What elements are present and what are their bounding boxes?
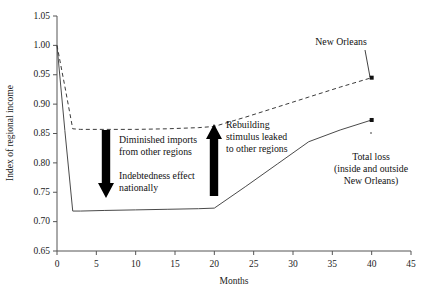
y-tick-label: 0.95: [33, 69, 50, 79]
y-axis-tick-labels: 0.650.700.750.800.850.900.951.001.05: [33, 11, 50, 256]
new-orleans-label: New Orleans: [315, 36, 367, 47]
chart-figure: 0.650.700.750.800.850.900.951.001.05 051…: [0, 0, 427, 302]
y-tick-label: 1.05: [33, 11, 50, 21]
x-tick-label: 45: [406, 259, 416, 269]
down-arrow: [98, 130, 114, 198]
y-tick-label: 0.70: [33, 216, 50, 226]
x-tick-label: 35: [328, 259, 338, 269]
indebtedness-label-line-1: Indebtedness effect: [119, 170, 195, 181]
x-axis-ticks: [57, 251, 411, 255]
x-tick-label: 0: [55, 259, 60, 269]
x-tick-label: 20: [210, 259, 220, 269]
rebuilding-stimulus-label-line-1: Rebuilding: [226, 119, 270, 130]
rebuilding-stimulus-label-line-2: stimulus leaked: [226, 131, 287, 142]
y-tick-label: 1.00: [33, 40, 50, 50]
indebtedness-label-line-2: nationally: [119, 182, 158, 193]
new-orleans-label-leader: [365, 50, 370, 77]
y-tick-label: 0.85: [33, 128, 50, 138]
total-loss-label-line-3: New Orleans): [344, 175, 399, 187]
y-tick-label: 0.80: [33, 158, 50, 168]
y-tick-label: 0.65: [33, 246, 50, 256]
up-arrow: [206, 124, 222, 196]
x-tick-label: 15: [170, 259, 180, 269]
total-loss-label-line-2: (inside and outside: [334, 163, 409, 175]
axes: 0.650.700.750.800.850.900.951.001.05 051…: [33, 11, 416, 270]
series-endpoint-markers: [370, 76, 374, 122]
series-endpoint-marker: [370, 118, 374, 122]
diminished-imports-label-line-2: from other regions: [119, 146, 192, 157]
x-tick-label: 10: [131, 259, 141, 269]
total-loss-label-line-1: Total loss: [352, 151, 390, 162]
y-axis-title: Index of regional income: [5, 85, 15, 181]
x-axis-tick-labels: 051015202530354045: [55, 259, 416, 269]
x-tick-label: 40: [367, 259, 377, 269]
y-tick-label: 0.90: [33, 99, 50, 109]
series-line-new-orleans: [57, 45, 372, 129]
y-tick-label: 0.75: [33, 187, 50, 197]
x-tick-label: 5: [94, 259, 99, 269]
diminished-imports-label-line-1: Diminished imports: [119, 134, 197, 145]
y-axis-ticks: [53, 16, 57, 251]
x-tick-label: 25: [249, 259, 259, 269]
rebuilding-stimulus-label-line-3: to other regions: [226, 143, 288, 154]
x-axis-title: Months: [219, 276, 248, 286]
annotation-texts: New OrleansTotal loss(inside and outside…: [119, 36, 409, 193]
chart-svg: 0.650.700.750.800.850.900.951.001.05 051…: [0, 0, 427, 302]
x-tick-label: 30: [288, 259, 298, 269]
